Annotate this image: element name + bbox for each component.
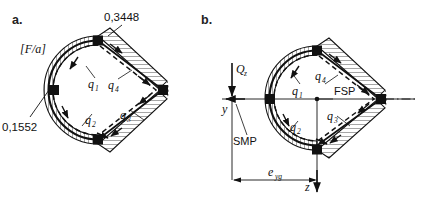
node-left — [265, 94, 275, 104]
panel-b-smp-leader — [236, 104, 247, 135]
panel-a-left-node-value: 0,1552 — [2, 121, 37, 133]
svg-text:q: q — [315, 69, 321, 83]
figure-container: a. [F/a] 0,3448 0,1552 q 1 q 2 q 3 q 4 — [0, 0, 421, 207]
figure-svg: a. [F/a] 0,3448 0,1552 q 1 q 2 q 3 q 4 — [0, 0, 421, 207]
panel-a-label: a. — [12, 13, 22, 27]
svg-text:q: q — [85, 113, 91, 127]
svg-text:2: 2 — [92, 120, 96, 129]
panel-a-q2-label: q 2 — [85, 113, 96, 129]
svg-text:2: 2 — [297, 127, 301, 136]
panel-b-q3-label: q 3 — [327, 109, 338, 125]
svg-text:yg: yg — [274, 172, 282, 181]
panel-b-q2-label: q 2 — [290, 120, 301, 136]
svg-text:e: e — [268, 165, 274, 179]
panel-b-smp-label: SMP — [233, 135, 257, 147]
svg-text:3: 3 — [126, 115, 131, 124]
svg-text:z: z — [243, 69, 247, 78]
svg-text:4: 4 — [322, 76, 326, 85]
panel-b-label: b. — [201, 13, 212, 27]
panel-a-q1-label: q 1 — [88, 77, 99, 93]
fsp-point — [315, 97, 320, 102]
panel-b-q4-label: q 4 — [315, 69, 326, 85]
node-nose — [376, 94, 386, 104]
node-bottom — [312, 145, 322, 155]
node-nose — [158, 85, 168, 95]
svg-text:q: q — [292, 84, 298, 98]
panel-a-lower-flange — [98, 91, 167, 152]
panel-a-unit-label: [F/a] — [20, 42, 46, 56]
svg-text:q: q — [120, 108, 126, 122]
svg-text:q: q — [108, 78, 114, 92]
panel-a-q4-label: q 4 — [108, 78, 119, 94]
panel-b-dimension-label: e yg — [268, 165, 282, 181]
panel-b-q1-label: q 1 — [292, 84, 303, 100]
svg-text:q: q — [327, 109, 333, 123]
svg-text:q: q — [290, 120, 296, 134]
panel-b-y-axis-label: y — [221, 102, 228, 116]
panel-b: b. Q z y z FSP SMP e yg q 1 q 2 q 3 — [201, 13, 418, 194]
node-bottom — [93, 135, 103, 145]
panel-b-load-label: Q z — [236, 62, 247, 78]
svg-text:4: 4 — [115, 85, 119, 94]
svg-text:3: 3 — [333, 116, 338, 125]
node-top — [312, 46, 322, 56]
node-top — [93, 36, 103, 46]
panel-a-top-node-value: 0,3448 — [104, 11, 139, 23]
svg-text:q: q — [88, 77, 94, 91]
svg-text:1: 1 — [299, 91, 303, 100]
panel-a: a. [F/a] 0,3448 0,1552 q 1 q 2 q 3 q 4 — [2, 11, 168, 152]
node-left — [49, 85, 59, 95]
svg-text:1: 1 — [95, 84, 99, 93]
panel-b-fsp-label: FSP — [334, 85, 355, 97]
panel-b-z-axis-label: z — [304, 180, 310, 194]
